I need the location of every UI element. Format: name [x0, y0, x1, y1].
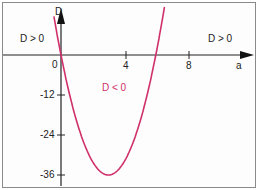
y-tick-label-m12: -12 — [40, 90, 54, 100]
y-tick-label-m24: -24 — [40, 130, 54, 140]
x-axis-label: a — [236, 61, 242, 71]
region-label-right: D > 0 — [208, 34, 232, 44]
y-tick-label-m36: -36 — [40, 170, 54, 180]
x-axis-arrow-icon — [240, 51, 254, 59]
x-tick-label-4: 4 — [123, 61, 129, 71]
y-axis-label: D — [55, 7, 62, 17]
region-label-mid: D < 0 — [102, 83, 126, 93]
region-label-left: D > 0 — [20, 34, 44, 44]
x-tick-label-8: 8 — [186, 61, 192, 71]
origin-label: 0 — [52, 60, 58, 70]
chart-plot — [0, 0, 258, 190]
